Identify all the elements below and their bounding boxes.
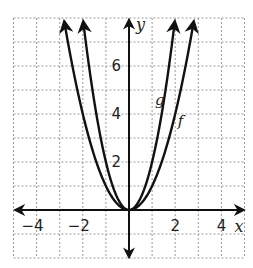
y-tick-label: 2 (111, 153, 121, 171)
curve-label-f: f (177, 112, 186, 130)
x-axis-label: x (234, 217, 243, 236)
x-tick-label: −4 (22, 217, 44, 235)
y-tick-label: 4 (111, 105, 121, 123)
parabola-graph: −4−224246 x y g f (0, 0, 253, 268)
x-tick-label: −2 (68, 217, 90, 235)
x-tick-label: 4 (217, 217, 227, 235)
y-axis-label: y (135, 15, 146, 34)
x-tick-label: 2 (170, 217, 180, 235)
y-tick-label: 6 (111, 57, 121, 75)
curve-label-g: g (155, 91, 165, 109)
